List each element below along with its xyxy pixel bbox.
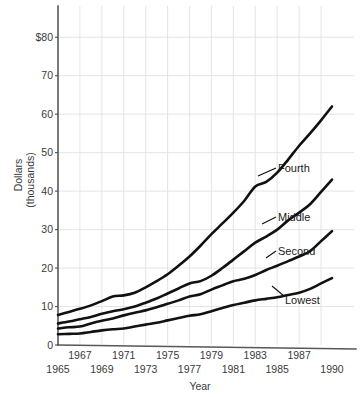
x-tick-label-lower: 1973	[134, 363, 158, 375]
y-axis-tick-labels: $80706050403020100	[35, 31, 58, 351]
x-tick-label-upper: 1971	[112, 349, 136, 361]
x-tick-label-upper: 1967	[68, 349, 92, 361]
y-axis-title-line2: (thousands)	[24, 152, 36, 207]
annotation-label: Lowest	[285, 294, 320, 306]
y-tick-label: 30	[41, 223, 53, 235]
annotation-label: Second	[278, 245, 315, 257]
y-tick: 10	[41, 300, 58, 312]
y-tick: 70	[41, 69, 58, 81]
x-tick-label-lower: 1981	[222, 363, 246, 375]
annotation-leader-line	[266, 251, 276, 258]
y-tick: 60	[41, 108, 58, 120]
x-tick-label-upper: 1983	[244, 349, 268, 361]
y-tick-label: 60	[41, 108, 53, 120]
x-tick-label-upper: 1979	[200, 349, 224, 361]
annotation-leader-line	[262, 217, 276, 224]
x-tick-label-lower: 1977	[178, 363, 202, 375]
y-tick-label: 20	[41, 262, 53, 274]
y-tick: 20	[41, 262, 58, 274]
y-tick: 0	[47, 339, 58, 351]
y-tick-label: 10	[41, 300, 53, 312]
x-tick-label-lower: 1969	[90, 363, 114, 375]
y-tick-label: $80	[35, 31, 53, 43]
y-tick-label: 70	[41, 69, 53, 81]
x-tick-label-lower: 1985	[266, 363, 290, 375]
x-tick-label-upper: 1975	[156, 349, 180, 361]
annotation-label: Middle	[278, 211, 310, 223]
y-tick-label: 40	[41, 185, 53, 197]
annotation-leader-line	[272, 286, 284, 296]
chart-container: $80706050403020100 196719711975197919831…	[0, 0, 364, 397]
annotation-label: Fourth	[278, 162, 310, 174]
y-tick: 40	[41, 185, 58, 197]
y-tick-label: 0	[47, 339, 53, 351]
y-axis-title-line1: Dollars	[12, 159, 24, 192]
x-axis-title: Year	[189, 380, 211, 392]
income-quintile-line-chart: $80706050403020100 196719711975197919831…	[0, 0, 364, 397]
y-tick: 30	[41, 223, 58, 235]
x-axis-tick-labels-lower: 1965196919731977198119851990	[46, 363, 344, 375]
y-tick-label: 50	[41, 146, 53, 158]
annotation-fourth: Fourth	[258, 162, 310, 176]
x-axis-tick-labels-upper: 196719711975197919831987	[68, 349, 311, 361]
annotation-middle: Middle	[262, 211, 310, 224]
y-tick: 50	[41, 146, 58, 158]
x-tick-label-upper: 1987	[287, 349, 311, 361]
annotation-second: Second	[266, 245, 315, 258]
series-annotations: FourthMiddleSecondLowest	[258, 162, 320, 306]
x-tick-label-lower: 1965	[46, 363, 70, 375]
x-tick-label-lower: 1990	[320, 363, 344, 375]
y-tick: $80	[35, 31, 58, 43]
